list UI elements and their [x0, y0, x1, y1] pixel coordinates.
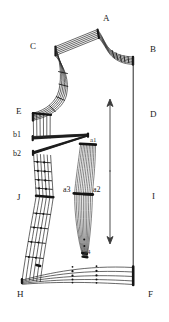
pattern-diagram-figure: A B C D E b1 b2 a1 a3 a2 J I a4 H F	[0, 0, 169, 322]
label-b2: b2	[13, 150, 21, 158]
mid-left-vertical-bundle	[34, 154, 54, 198]
label-F: F	[148, 290, 153, 299]
mid-left-tick-marks	[34, 162, 53, 190]
neckline-bundle	[98, 30, 134, 65]
label-a2: a2	[93, 186, 101, 194]
lower-left-flare-bundle	[22, 196, 53, 282]
armhole-curve-bundle	[33, 47, 67, 120]
grainline-double-arrow	[107, 99, 113, 244]
label-H: H	[17, 290, 24, 299]
waist-level-cap-J	[36, 196, 53, 197]
label-a1: a1	[90, 137, 97, 144]
waist-dart-mid-caps	[74, 193, 93, 194]
label-b1: b1	[13, 131, 21, 139]
hem-curve-bundle	[22, 267, 133, 284]
label-A: A	[103, 14, 110, 23]
label-E: E	[16, 107, 22, 116]
label-I: I	[152, 192, 155, 201]
label-a3: a3	[63, 186, 71, 194]
label-C: C	[30, 42, 36, 51]
waist-dart-bundle	[75, 145, 96, 257]
upper-left-vertical-bundle	[33, 114, 50, 139]
label-a4: a4	[84, 249, 91, 256]
label-D: D	[150, 110, 157, 119]
label-J: J	[17, 193, 21, 202]
shoulder-seam-bundle	[56, 30, 100, 56]
label-B: B	[150, 45, 156, 54]
pattern-line-art	[0, 0, 169, 322]
